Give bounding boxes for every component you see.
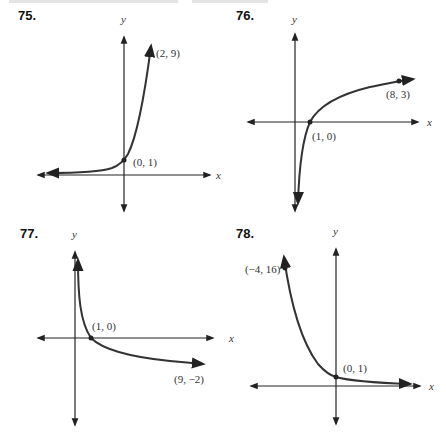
point <box>334 375 339 380</box>
point-label: (2, 9) <box>156 47 180 60</box>
point-label: (1, 0) <box>312 130 336 143</box>
point <box>192 361 197 366</box>
point-label: (0, 1) <box>133 156 157 169</box>
graph-78: 78. y x (−4, 16) (0, 1) <box>236 225 434 424</box>
graph-77: 77. y x (1, 0) (9, −2) <box>20 226 234 425</box>
page: 75. y x (2, 9) (0, 1) 76. y x (8, 3) (1,… <box>0 0 446 446</box>
problem-number: 76. <box>236 8 254 23</box>
graph-75: 75. y x (2, 9) (0, 1) <box>18 8 221 211</box>
graphs-figure: 75. y x (2, 9) (0, 1) 76. y x (8, 3) (1,… <box>0 0 446 446</box>
y-axis-label: y <box>291 13 297 25</box>
graph-76: 76. y x (8, 3) (1, 0) <box>236 8 432 211</box>
y-axis-label: y <box>120 13 126 25</box>
point <box>283 266 288 271</box>
y-axis-label: y <box>71 228 77 240</box>
point-label: (1, 0) <box>92 320 116 333</box>
y-axis-label: y <box>332 225 338 237</box>
point <box>148 51 153 56</box>
point <box>308 120 313 125</box>
problem-number: 77. <box>20 226 38 241</box>
point <box>89 336 94 341</box>
point-label: (−4, 16) <box>245 263 281 276</box>
problem-number: 75. <box>18 8 36 23</box>
point <box>397 79 402 84</box>
logarithmic-curve <box>78 260 203 364</box>
x-axis-label: x <box>215 169 221 181</box>
point-label: (8, 3) <box>386 88 410 101</box>
point-label: (0, 1) <box>343 362 367 375</box>
x-axis-label: x <box>426 116 432 128</box>
problem-number: 78. <box>236 226 254 241</box>
x-axis-label: x <box>428 380 434 392</box>
x-axis-label: x <box>228 332 234 344</box>
cut-off-text-line <box>0 0 446 3</box>
exponential-curve <box>48 46 151 173</box>
point-label: (9, −2) <box>174 373 204 386</box>
point <box>122 158 127 163</box>
